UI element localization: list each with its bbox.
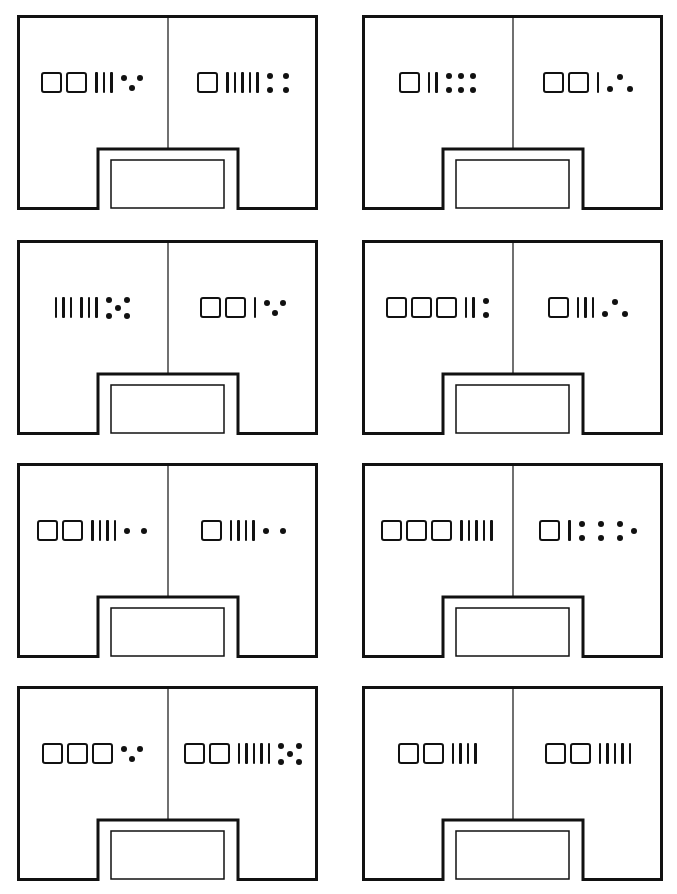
stick-icon: [467, 743, 470, 764]
dots-group: [121, 75, 143, 91]
card-right-panel: [513, 15, 663, 150]
dot-icon: [115, 305, 121, 311]
stick-icon: [468, 520, 471, 541]
square-icon: [209, 743, 230, 764]
stick-icon: [490, 520, 493, 541]
answer-box: [456, 160, 569, 208]
answer-box: [456, 385, 569, 433]
dot-icon: [617, 521, 623, 527]
dot-icon: [602, 311, 608, 317]
sticks-group: [452, 743, 477, 764]
card-left-panel: [17, 240, 167, 375]
stick-icon: [483, 520, 486, 541]
stick-icon: [452, 743, 455, 764]
card-right-panel: [513, 463, 663, 598]
dot-icon: [141, 528, 147, 534]
square-icon: [92, 743, 113, 764]
answer-box: [456, 608, 569, 656]
dot-icon: [129, 85, 135, 91]
stick-icon: [55, 297, 58, 318]
square-icon: [42, 743, 63, 764]
square-icon: [62, 520, 83, 541]
dot-icon: [579, 521, 585, 527]
dot-icon: [280, 528, 286, 534]
dot-icon: [446, 87, 452, 93]
squares-group: [37, 520, 83, 541]
squares-group: [42, 743, 113, 764]
square-icon: [570, 743, 591, 764]
answer-box: [456, 831, 569, 879]
sticks-group: [55, 297, 73, 318]
dots-group: [607, 74, 633, 92]
stick-icon: [249, 72, 252, 93]
dot-icon: [470, 73, 476, 79]
dot-icon: [124, 528, 130, 534]
stick-icon: [592, 297, 595, 318]
square-icon: [37, 520, 58, 541]
squares-group: [548, 297, 569, 318]
card-6: [362, 463, 663, 658]
stick-icon: [80, 297, 83, 318]
stick-icon: [245, 520, 248, 541]
answer-box: [111, 385, 224, 433]
squares-group: [41, 72, 87, 93]
answer-box: [111, 608, 224, 656]
sticks-group: [95, 72, 113, 93]
dot-icon: [124, 313, 130, 319]
square-icon: [399, 72, 420, 93]
dot-icon: [287, 751, 293, 757]
sticks-group: [599, 743, 632, 764]
stick-icon: [252, 520, 255, 541]
card-3: [17, 240, 318, 435]
stick-icon: [614, 743, 617, 764]
stick-icon: [106, 520, 109, 541]
dot-icon: [121, 75, 127, 81]
stick-icon: [88, 297, 91, 318]
square-icon: [545, 743, 566, 764]
dot-icon: [622, 311, 628, 317]
stick-icon: [253, 743, 256, 764]
square-icon: [568, 72, 589, 93]
square-icon: [67, 743, 88, 764]
squares-group: [543, 72, 589, 93]
dot-icon: [458, 87, 464, 93]
dots-group: [263, 528, 286, 534]
dot-icon: [263, 528, 269, 534]
card-left-panel: [362, 686, 512, 821]
square-icon: [197, 72, 218, 93]
stick-icon: [99, 520, 102, 541]
sticks-group: [577, 297, 595, 318]
stick-icon: [568, 520, 571, 541]
stick-icon: [70, 297, 73, 318]
stick-icon: [237, 520, 240, 541]
dot-icon: [278, 759, 284, 765]
dot-icon: [283, 73, 289, 79]
card-right-panel: [168, 686, 318, 821]
stick-icon: [260, 743, 263, 764]
card-right-panel: [168, 15, 318, 150]
square-icon: [543, 72, 564, 93]
sticks-group: [254, 297, 257, 318]
card-left-panel: [362, 240, 512, 375]
card-left-panel: [17, 15, 167, 150]
card-right-panel: [168, 240, 318, 375]
dot-icon: [579, 535, 585, 541]
stick-icon: [62, 297, 65, 318]
dot-icon: [446, 73, 452, 79]
card-1: [17, 15, 318, 210]
stick-icon: [577, 297, 580, 318]
stick-icon: [256, 72, 259, 93]
card-8: [362, 686, 663, 881]
dots-group: [121, 746, 143, 762]
card-7: [17, 686, 318, 881]
square-icon: [423, 743, 444, 764]
stick-icon: [460, 520, 463, 541]
dot-icon: [278, 743, 284, 749]
square-icon: [398, 743, 419, 764]
stick-icon: [226, 72, 229, 93]
stick-icon: [245, 743, 248, 764]
dots-group: [483, 298, 489, 318]
square-icon: [381, 520, 402, 541]
stick-icon: [103, 72, 106, 93]
stick-icon: [584, 297, 587, 318]
